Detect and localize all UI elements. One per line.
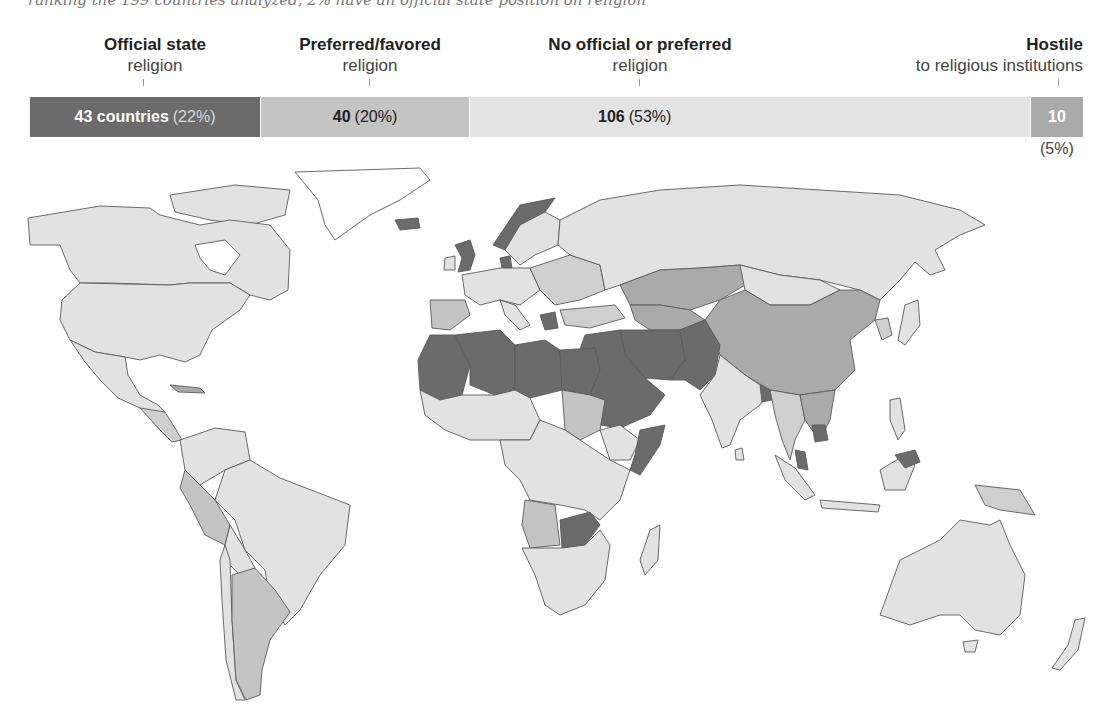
segment-official-pct: (22%) xyxy=(173,108,216,126)
region-central-america xyxy=(140,408,182,442)
label-preferred-title: Preferred/favored xyxy=(270,34,470,55)
label-none: No official or preferred religion xyxy=(510,34,770,76)
label-preferred: Preferred/favored religion xyxy=(270,34,470,76)
label-hostile: Hostile to religious institutions xyxy=(840,34,1083,76)
segment-preferred-pct: (20%) xyxy=(355,108,398,126)
region-greece xyxy=(540,312,558,330)
label-hostile-title: Hostile xyxy=(840,34,1083,55)
region-uk xyxy=(455,240,475,272)
region-myanmar-thailand xyxy=(770,390,805,460)
region-ethiopia xyxy=(600,425,640,460)
bar-segment-hostile: 10 xyxy=(1031,97,1083,137)
label-official: Official state religion xyxy=(70,34,240,76)
region-korea xyxy=(875,318,892,340)
region-cambodia xyxy=(812,425,828,442)
bar-segment-none: 106 (53%) xyxy=(470,97,1031,137)
region-cuba xyxy=(170,385,205,393)
region-australia xyxy=(880,520,1025,635)
bar-segment-official: 43 countries (22%) xyxy=(30,97,261,137)
region-tasmania xyxy=(963,640,978,652)
segment-preferred-count: 40 xyxy=(333,108,351,126)
label-none-title: No official or preferred xyxy=(510,34,770,55)
region-new-zealand xyxy=(1052,618,1085,670)
world-map xyxy=(0,160,1099,711)
segment-hostile-count: 10 xyxy=(1048,108,1066,126)
region-ireland xyxy=(444,256,455,270)
stacked-bar: 43 countries (22%) 40 (20%) 106 (53%) 10 xyxy=(30,97,1083,137)
region-japan xyxy=(898,300,920,345)
label-hostile-sub: to religious institutions xyxy=(840,55,1083,76)
region-spain xyxy=(430,300,470,330)
label-official-title: Official state xyxy=(70,34,240,55)
region-papua xyxy=(975,485,1035,515)
segment-none-count: 106 xyxy=(598,108,625,126)
region-libya xyxy=(515,340,562,398)
region-sri-lanka xyxy=(735,448,744,460)
segment-hostile-pct: (5%) xyxy=(1040,140,1074,158)
tick-preferred xyxy=(369,79,370,86)
region-denmark xyxy=(500,256,512,268)
chart-subtitle: ranking the 199 countries analyzed, 2% h… xyxy=(28,0,646,9)
segment-none-pct: (53%) xyxy=(629,108,672,126)
region-iceland xyxy=(395,218,420,230)
region-java xyxy=(820,500,880,512)
region-western-europe xyxy=(462,268,540,305)
region-malaysia xyxy=(795,450,808,470)
region-turkey xyxy=(560,305,625,328)
region-philippines xyxy=(890,398,905,440)
region-arctic-islands xyxy=(170,185,290,225)
region-angola xyxy=(522,500,560,548)
label-official-sub: religion xyxy=(70,55,240,76)
segment-official-count: 43 countries xyxy=(75,108,169,126)
label-preferred-sub: religion xyxy=(270,55,470,76)
tick-hostile xyxy=(1058,79,1059,86)
region-madagascar xyxy=(640,525,660,575)
label-none-sub: religion xyxy=(510,55,770,76)
bar-segment-preferred: 40 (20%) xyxy=(261,97,470,137)
tick-none xyxy=(639,79,640,86)
tick-official xyxy=(143,79,144,86)
region-italy xyxy=(500,300,530,330)
region-sumatra xyxy=(775,455,815,500)
